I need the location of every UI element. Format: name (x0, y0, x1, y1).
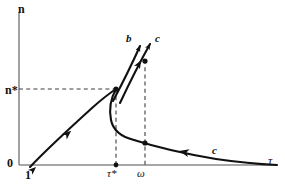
branch-label-c-lower: c (212, 145, 217, 156)
upper-branches (113, 44, 150, 103)
x-axis-label: τ (268, 155, 272, 167)
x-tick-label-tau-star: τ* (107, 168, 116, 179)
phase-diagram-plot (0, 0, 285, 186)
branch-label-c-upper: c (155, 33, 160, 44)
start-label-one: 1 (25, 169, 31, 181)
curve-lower-decaying-branch (134, 140, 277, 165)
x-tick-label-omega: ω (137, 168, 145, 179)
y-tick-label-n-star: n* (5, 84, 18, 96)
marker-omega-upper (142, 58, 147, 63)
branch-label-b: b (126, 33, 132, 44)
branch-b (113, 46, 140, 101)
marker-fold-point (113, 86, 118, 91)
origin-label: 0 (7, 157, 13, 169)
s-curve (30, 89, 277, 167)
direction-arrows (28, 59, 190, 175)
curve-lower-rising-branch (30, 89, 116, 167)
branch-c (120, 44, 150, 103)
curve-markers (113, 58, 147, 167)
figure-canvas: n n* 0 1 τ* ω τ b c c (0, 0, 285, 186)
marker-omega-lower (142, 140, 147, 145)
y-axis-label: n (18, 3, 25, 15)
